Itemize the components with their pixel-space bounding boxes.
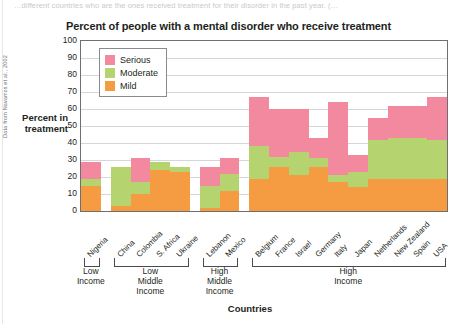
chart-legend: Serious Moderate Mild: [99, 48, 167, 97]
segment-mild: [407, 179, 427, 211]
segment-moderate: [150, 162, 170, 171]
y-axis-ticks: 1009080706050403020100: [52, 40, 77, 212]
x-label-usa: USA: [432, 241, 450, 259]
y-tick-0: 0: [53, 206, 77, 215]
legend-label-moderate: Moderate: [120, 68, 158, 78]
segment-serious: [328, 102, 348, 175]
y-tick-20: 20: [53, 172, 77, 181]
segment-moderate: [131, 182, 151, 194]
y-tick-50: 50: [53, 121, 77, 130]
segment-serious: [309, 138, 329, 158]
x-axis-labels: NigeriaChinaColombiaS. AfricaUkraineLeba…: [80, 213, 448, 259]
x-label-nigeria: Nigeria: [86, 235, 110, 259]
segment-moderate: [200, 186, 220, 208]
y-tick-60: 60: [53, 104, 77, 113]
group-label-line: Income: [120, 286, 180, 296]
segment-mild: [368, 179, 388, 211]
segment-mild: [328, 182, 348, 211]
segment-moderate: [427, 140, 447, 179]
bar-belgium: [249, 41, 269, 211]
segment-mild: [289, 175, 309, 211]
segment-mild: [388, 179, 408, 211]
bar-ukraine: [170, 41, 190, 211]
segment-mild: [220, 191, 240, 211]
group-label-line: Income: [61, 276, 121, 286]
legend-label-mild: Mild: [120, 81, 137, 91]
bar-japan: [348, 41, 368, 211]
segment-mild: [150, 170, 170, 211]
page-edge-line: [2, 0, 3, 324]
segment-serious: [200, 167, 220, 186]
segment-mild: [200, 208, 220, 211]
segment-serious: [131, 158, 151, 182]
segment-mild: [269, 167, 289, 211]
group-label-line: High: [190, 266, 250, 276]
bar-new-zealand: [388, 41, 408, 211]
y-tick-10: 10: [53, 189, 77, 198]
segment-moderate: [111, 167, 131, 206]
segment-serious: [388, 106, 408, 138]
segment-moderate: [289, 152, 309, 176]
segment-mild: [170, 172, 190, 211]
moderate-swatch-icon: [105, 68, 115, 78]
segment-moderate: [249, 146, 269, 178]
segment-moderate: [309, 158, 329, 167]
segment-mild: [111, 206, 131, 211]
segment-moderate: [368, 140, 388, 179]
bar-usa: [427, 41, 447, 211]
segment-moderate: [328, 175, 348, 182]
serious-swatch-icon: [105, 55, 115, 65]
segment-mild: [309, 167, 329, 211]
bar-israel: [289, 41, 309, 211]
source-credit: Data from Navarros et al., 2002: [2, 55, 8, 138]
bar-netherlands: [368, 41, 388, 211]
segment-mild: [427, 179, 447, 211]
x-label-china: China: [115, 238, 136, 259]
segment-moderate: [81, 179, 101, 186]
segment-serious: [348, 155, 368, 172]
segment-serious: [289, 109, 309, 152]
group-labels: LowIncomeLowMiddleIncomeHighMiddleIncome…: [80, 266, 448, 302]
y-tick-30: 30: [53, 155, 77, 164]
segment-serious: [427, 97, 447, 140]
segment-mild: [131, 194, 151, 211]
group-label-line: Low: [61, 266, 121, 276]
group-label-0: LowIncome: [61, 266, 121, 286]
x-label-italy: Italy: [333, 243, 349, 259]
mild-swatch-icon: [105, 81, 115, 91]
legend-item-mild: Mild: [105, 79, 158, 92]
group-label-line: Middle: [120, 276, 180, 286]
group-label-1: LowMiddleIncome: [120, 266, 180, 296]
bar-italy: [328, 41, 348, 211]
y-tick-80: 80: [53, 70, 77, 79]
segment-serious: [249, 97, 269, 146]
bar-germany: [309, 41, 329, 211]
segment-serious: [407, 106, 427, 138]
segment-serious: [269, 109, 289, 157]
x-axis-title: Countries: [180, 303, 320, 314]
segment-mild: [249, 179, 269, 211]
segment-mild: [81, 186, 101, 212]
group-label-2: HighMiddleIncome: [190, 266, 250, 296]
segment-serious: [81, 162, 101, 179]
chart-title: Percent of people with a mental disorder…: [0, 20, 457, 32]
group-label-line: Income: [318, 276, 378, 286]
segment-moderate: [170, 167, 190, 172]
group-label-line: High: [318, 266, 378, 276]
segment-moderate: [348, 172, 368, 187]
segment-moderate: [407, 138, 427, 179]
y-tick-90: 90: [53, 53, 77, 62]
legend-item-moderate: Moderate: [105, 66, 158, 79]
bar-france: [269, 41, 289, 211]
segment-serious: [368, 118, 388, 140]
segment-moderate: [269, 157, 289, 167]
bar-spain: [407, 41, 427, 211]
legend-item-serious: Serious: [105, 53, 158, 66]
group-label-line: Income: [190, 286, 250, 296]
y-tick-70: 70: [53, 87, 77, 96]
y-tick-40: 40: [53, 138, 77, 147]
segment-serious: [220, 158, 240, 173]
bar-lebanon: [200, 41, 220, 211]
bar-mexico: [220, 41, 240, 211]
segment-moderate: [388, 138, 408, 179]
